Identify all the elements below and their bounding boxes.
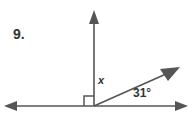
- arrow-up-icon: [89, 10, 99, 24]
- arrow-left-icon: [4, 101, 17, 111]
- angle-figure: [0, 0, 192, 139]
- arrow-up-right-icon: [160, 67, 180, 81]
- arrow-right-icon: [175, 101, 188, 111]
- right-angle-mark-icon: [84, 96, 94, 106]
- known-angle-label: 31°: [133, 87, 151, 99]
- diagonal-ray: [94, 74, 166, 106]
- unknown-angle-label: x: [98, 75, 104, 86]
- problem-number-label: 9.: [13, 27, 25, 41]
- geometry-diagram-screenshot: 9. x 31°: [0, 0, 192, 139]
